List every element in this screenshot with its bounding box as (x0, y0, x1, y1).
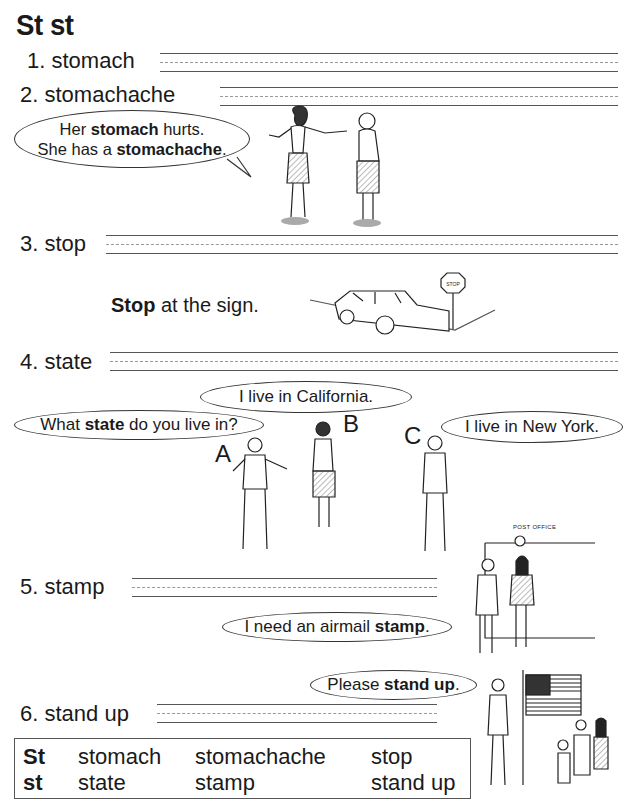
item-number: 4. (20, 349, 38, 374)
item-number: 5. (20, 574, 38, 599)
svg-text:STOP: STOP (446, 281, 460, 287)
item-stamp: 5. stamp (20, 574, 104, 600)
post-office-illustration-icon (460, 535, 610, 660)
word-summary-box: St stomach stomachache stop st state sta… (14, 738, 471, 799)
writing-line-1[interactable] (160, 53, 618, 72)
item-stand-up: 6. stand up (20, 701, 129, 727)
item-number: 2. (20, 82, 38, 107)
summary-label-uppercase: St (23, 744, 45, 770)
speech-bubble-stamp: I need an airmail stamp. (222, 612, 452, 642)
two-women-illustration-icon (255, 105, 405, 230)
item-state: 4. state (20, 349, 92, 375)
item-number: 1. (27, 48, 45, 73)
summary-word: stomach (78, 744, 161, 770)
item-word: stop (44, 231, 86, 256)
summary-word: stamp (195, 770, 255, 796)
writing-line-4[interactable] (110, 352, 618, 371)
writing-line-2[interactable] (220, 87, 618, 106)
item-stomachache: 2. stomachache (20, 82, 175, 108)
post-office-sign: POST OFFICE (513, 524, 556, 530)
item-number: 6. (20, 701, 38, 726)
item-stomach: 1. stomach (27, 48, 135, 74)
bubble-tail-icon (225, 155, 255, 180)
summary-word: state (78, 770, 126, 796)
item-word: stand up (44, 701, 128, 726)
speech-bubble-stomach: Her stomach hurts. She has a stomachache… (14, 110, 250, 168)
summary-word: stomachache (195, 744, 326, 770)
car-stop-sign-illustration-icon: STOP (305, 265, 500, 345)
speech-bubble-stand-up: Please stand up. (310, 670, 477, 700)
item-word: stomach (51, 48, 134, 73)
summary-word: stop (371, 744, 413, 770)
writing-line-6[interactable] (157, 704, 437, 723)
flag-salute-illustration-icon (478, 665, 628, 812)
item-number: 3. (20, 231, 38, 256)
summary-label-lowercase: st (23, 770, 43, 796)
item-word: stomachache (44, 82, 175, 107)
item-stop: 3. stop (20, 231, 86, 257)
item-word: state (44, 349, 92, 374)
writing-line-3[interactable] (106, 235, 618, 254)
summary-word: stand up (371, 770, 455, 796)
writing-line-5[interactable] (132, 578, 437, 597)
stop-caption: Stop at the sign. (111, 294, 259, 317)
three-people-illustration-icon (215, 415, 475, 560)
page-title: St st (16, 8, 74, 42)
speech-bubble-california: I live in California. (200, 381, 412, 413)
item-word: stamp (44, 574, 104, 599)
